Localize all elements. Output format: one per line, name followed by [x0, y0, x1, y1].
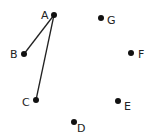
graph-diagram: A B C D E F G — [0, 0, 152, 138]
node-a — [51, 12, 57, 18]
node-label-g: G — [107, 14, 116, 27]
node-label-c: C — [22, 96, 30, 109]
node-label-f: F — [138, 48, 144, 61]
edges — [24, 15, 54, 100]
node-label-b: B — [10, 48, 18, 61]
node-e — [115, 98, 121, 104]
node-label-a: A — [41, 9, 49, 22]
labels: A B C D E F G — [10, 9, 144, 135]
node-g — [98, 15, 104, 21]
node-f — [128, 50, 134, 56]
nodes — [21, 12, 134, 125]
node-c — [33, 97, 39, 103]
node-label-e: E — [124, 100, 131, 113]
node-label-d: D — [77, 122, 85, 135]
node-b — [21, 51, 27, 57]
